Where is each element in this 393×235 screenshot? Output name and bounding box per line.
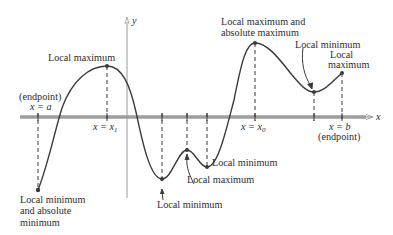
label-x-equals-x1: x = x1 (92, 121, 118, 134)
extrema-diagram: x y (endpoint) (0, 0, 393, 235)
label-abs-min-1: Local minimum (20, 194, 85, 205)
point-local-max-2 (185, 148, 189, 152)
point-local-min-2 (205, 165, 209, 169)
label-local-max-x1: Local maximum (48, 52, 115, 63)
point-local-max-b (340, 71, 344, 75)
label-abs-max-1: Local maximum and (221, 16, 305, 27)
x-axis: x (20, 111, 381, 122)
label-local-max-bottom-mid: Local maximum (187, 174, 254, 185)
x-axis-label: x (375, 111, 381, 122)
point-local-min-1 (160, 177, 164, 181)
label-x-equals-x0: x = x0 (240, 121, 266, 134)
point-abs-max (253, 41, 257, 45)
label-local-min-bottom-mid: Local minimum (157, 199, 222, 210)
label-abs-min-2: and absolute (20, 205, 72, 216)
label-local-max-right-2: maximum (328, 59, 369, 70)
label-abs-min-3: minimum (20, 217, 60, 228)
label-local-min-bottom-right: Local minimum (212, 157, 277, 168)
label-endpoint-b: (endpoint) (318, 131, 360, 143)
labels: (endpoint) x = a Local maximum Local max… (19, 16, 369, 228)
point-local-max-x1 (105, 64, 109, 68)
point-local-min-3 (312, 90, 316, 94)
arrow-local-min-3 (302, 48, 311, 86)
y-axis-label: y (131, 15, 137, 26)
label-abs-max-2: absolute maximum (221, 27, 299, 38)
label-x-equals-a: x = a (29, 101, 52, 112)
point-abs-min (36, 188, 40, 192)
